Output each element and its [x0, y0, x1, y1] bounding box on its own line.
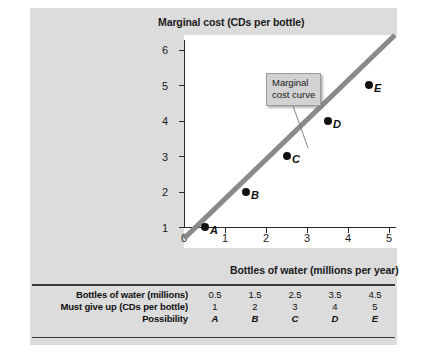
- table-bottom-rule: [32, 337, 395, 338]
- table-cell: 5: [355, 300, 395, 312]
- data-point-c: [283, 152, 291, 160]
- table-cell: 4.5: [355, 288, 395, 300]
- data-point-label-a: A: [210, 224, 218, 236]
- marginal-cost-curve-svg: [30, 8, 397, 280]
- table-row: Possibility A B C D E: [32, 312, 395, 324]
- data-point-label-d: D: [333, 118, 341, 130]
- table-cell: 2: [235, 300, 275, 312]
- data-table-block: Bottles of water (millions) 0.5 1.5 2.5 …: [30, 284, 397, 342]
- data-point-e: [365, 81, 373, 89]
- annotation-line-1: Marginal: [272, 77, 315, 89]
- table-cell: D: [315, 312, 355, 324]
- table-cell: A: [195, 312, 235, 324]
- marginal-cost-curve-line: [184, 35, 395, 239]
- table-cell: C: [275, 312, 315, 324]
- annotation-line-2: cost curve: [272, 89, 315, 101]
- table-cell: 0.5: [195, 288, 235, 300]
- table-row: Must give up (CDs per bottle) 1 2 3 4 5: [32, 300, 395, 312]
- data-point-d: [324, 117, 332, 125]
- table-row-label-must-give-up: Must give up (CDs per bottle): [32, 300, 195, 312]
- table-cell: 1.5: [235, 288, 275, 300]
- data-point-a: [201, 223, 209, 231]
- table-cell: 2.5: [275, 288, 315, 300]
- table-row: Bottles of water (millions) 0.5 1.5 2.5 …: [32, 288, 395, 300]
- table-cell: 3: [275, 300, 315, 312]
- table-row-label-possibility: Possibility: [32, 312, 195, 324]
- chart-block: Marginal cost (CDs per bottle) Bottles o…: [30, 8, 397, 280]
- table-cell: 1: [195, 300, 235, 312]
- table-cell: E: [355, 312, 395, 324]
- data-point-label-e: E: [374, 82, 381, 94]
- table-cell: 3.5: [315, 288, 355, 300]
- possibilities-table: Bottles of water (millions) 0.5 1.5 2.5 …: [32, 288, 395, 325]
- table-cell: 4: [315, 300, 355, 312]
- table-row-label-bottles: Bottles of water (millions): [32, 288, 195, 300]
- table-top-rule: [32, 284, 395, 286]
- table-cell: B: [235, 312, 275, 324]
- data-point-label-c: C: [292, 153, 300, 165]
- callout-leader-line: [292, 103, 308, 148]
- figure-panel: Marginal cost (CDs per bottle) Bottles o…: [30, 8, 397, 345]
- data-point-label-b: B: [251, 189, 259, 201]
- marginal-cost-curve-annotation: Marginal cost curve: [266, 73, 321, 106]
- data-point-b: [242, 188, 250, 196]
